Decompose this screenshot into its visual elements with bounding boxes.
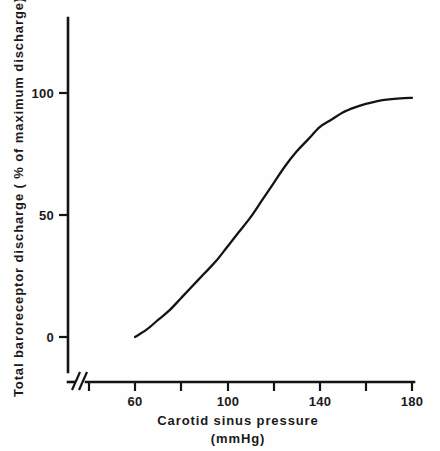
y-tick-label-100: 100: [31, 86, 54, 101]
y-tick-label-50: 50: [39, 208, 54, 223]
x-tick-label-100: 100: [217, 394, 240, 409]
x-tick-label-140: 140: [309, 394, 332, 409]
y-axis-title: Total baroreceptor discharge ( % of maxi…: [11, 0, 26, 397]
y-tick-label-0: 0: [46, 330, 54, 345]
x-axis-title-line2: (mmHg): [211, 431, 266, 446]
baroreceptor-discharge-curve: [135, 98, 412, 337]
chart-figure: 100 50 0 60 100 140 180 Carotid sinus pr…: [0, 0, 440, 451]
x-tick-label-180: 180: [401, 394, 424, 409]
x-tick-label-60: 60: [127, 394, 142, 409]
baroreceptor-discharge-chart: 100 50 0 60 100 140 180 Carotid sinus pr…: [0, 0, 440, 451]
x-axis-title-line1: Carotid sinus pressure: [157, 413, 318, 428]
